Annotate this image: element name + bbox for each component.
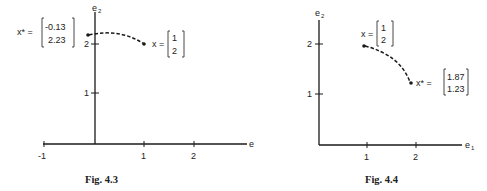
x-tick-label: -1 — [38, 151, 46, 161]
x-vector-component-2: 2 — [172, 46, 177, 56]
x-tick-label: 2 — [413, 152, 418, 162]
figure-caption: Fig. 4.3 — [85, 174, 118, 185]
figure-4-4: 1 2 2 1 e 2 e 1 x = 1 2 x* = 1.87 1.23 F… — [307, 8, 475, 185]
x-axis-label-subscript: 1 — [471, 145, 475, 151]
right-bracket — [391, 21, 393, 46]
left-bracket — [168, 31, 170, 57]
x-vector-component-1: 1 — [381, 23, 386, 33]
x-tick-label: 1 — [141, 151, 146, 161]
y-tick-label: 2 — [307, 39, 312, 49]
right-bracket — [466, 69, 468, 95]
x-star-label: x* = — [416, 78, 432, 88]
y-tick-label: 1 — [307, 89, 312, 99]
y-axis-label-subscript: 2 — [321, 13, 325, 19]
y-axis-label: e — [92, 3, 97, 13]
right-bracket — [182, 31, 184, 57]
x-star-vector-component-1: -0.13 — [45, 22, 66, 32]
trajectory-path — [365, 46, 410, 82]
x-vector-component-1: 1 — [172, 33, 177, 43]
left-bracket — [42, 18, 44, 47]
point-x — [362, 44, 366, 48]
x-star-vector-component-2: 1.23 — [447, 84, 465, 94]
y-tick-label: 1 — [84, 88, 89, 98]
x-star-vector-component-2: 2.23 — [48, 35, 66, 45]
left-bracket — [444, 69, 446, 95]
left-bracket — [377, 21, 379, 46]
x-label: x = — [152, 39, 164, 49]
x-tick-label: 2 — [191, 151, 196, 161]
y-axis-label: e — [315, 8, 320, 18]
x-label: x = — [361, 29, 373, 39]
point-x-star — [86, 33, 90, 37]
x-axis-label: e — [465, 140, 470, 150]
x-vector-component-2: 2 — [381, 35, 386, 45]
point-x — [142, 42, 146, 46]
x-star-vector-component-1: 1.87 — [447, 72, 465, 82]
figure-4-3: -1 1 2 2 1 e 2 e x* = -0.13 2.23 x = 1 2… — [17, 3, 254, 185]
y-tick-label: 2 — [84, 39, 89, 49]
x-star-label: x* = — [17, 27, 33, 37]
x-axis-label: e — [249, 139, 254, 149]
figure-caption: Fig. 4.4 — [365, 174, 399, 185]
right-bracket — [72, 18, 74, 47]
trajectory-path — [89, 33, 144, 44]
point-x-star — [409, 81, 413, 85]
y-axis-label-subscript: 2 — [98, 8, 102, 14]
x-tick-label: 1 — [364, 152, 369, 162]
figures-canvas: -1 1 2 2 1 e 2 e x* = -0.13 2.23 x = 1 2… — [0, 0, 487, 191]
